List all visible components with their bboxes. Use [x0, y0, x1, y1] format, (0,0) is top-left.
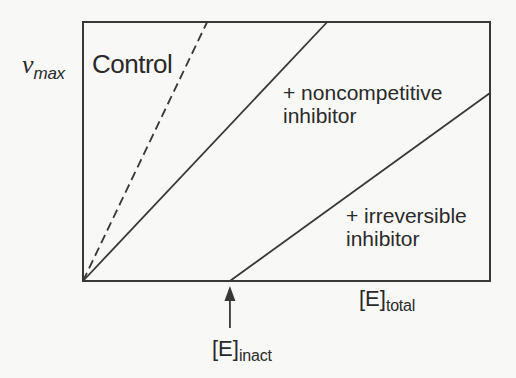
irreversible-label-line1: + irreversible	[346, 204, 467, 227]
y-axis-symbol: ν	[22, 50, 34, 79]
noncompetitive-series-label: + noncompetitive inhibitor	[283, 81, 442, 127]
control-series-label: Control	[92, 49, 172, 80]
enzyme-kinetics-figure: νmax Control + noncompetitive inhibitor …	[0, 0, 516, 378]
x-axis-label: [E]total	[359, 286, 415, 315]
inact-arrow	[224, 286, 235, 328]
y-axis-subscript: max	[34, 64, 65, 83]
inact-annotation-label: [E]inact	[212, 336, 272, 365]
y-axis-label: νmax	[22, 50, 65, 84]
noncompetitive-label-line2: inhibitor	[283, 104, 442, 127]
inact-symbol: [E]	[212, 336, 239, 361]
x-axis-symbol: [E]	[359, 286, 386, 311]
inact-subscript: inact	[239, 347, 272, 364]
noncompetitive-label-line1: + noncompetitive	[283, 81, 442, 104]
plot-canvas	[0, 0, 516, 378]
irreversible-label-line2: inhibitor	[346, 227, 467, 250]
x-axis-subscript: total	[386, 297, 415, 314]
irreversible-series-label: + irreversible inhibitor	[346, 204, 467, 250]
